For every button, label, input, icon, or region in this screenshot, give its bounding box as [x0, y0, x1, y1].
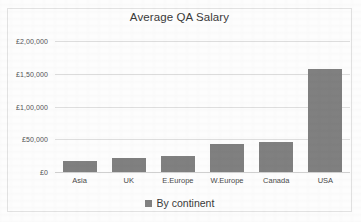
- bar-e-europe: [161, 156, 195, 172]
- bar-uk: [112, 158, 146, 172]
- y-tick-label: £1,00,000: [16, 103, 48, 110]
- x-tick-label: USA: [301, 176, 350, 185]
- gridline-0: [55, 172, 350, 173]
- chart-title: Average QA Salary: [7, 11, 352, 23]
- legend-swatch-icon: [145, 200, 152, 207]
- bar-canada: [259, 142, 293, 172]
- x-tick-label: UK: [104, 176, 153, 185]
- y-tick-label: £1,50,000: [16, 70, 48, 77]
- x-tick-label: E.Europe: [153, 176, 202, 185]
- y-tick-label: £50,000: [22, 136, 48, 143]
- x-tick-label: Canada: [252, 176, 301, 185]
- y-axis-tick-labels: £0£50,000£1,00,000£1,50,000£2,00,000: [0, 41, 52, 172]
- bar-usa: [308, 69, 342, 172]
- x-tick-label: W.Europe: [203, 176, 252, 185]
- y-tick-label: £2,00,000: [16, 38, 48, 45]
- x-axis-tick-labels: AsiaUKE.EuropeW.EuropeCanadaUSA: [55, 176, 350, 190]
- bar-w-europe: [210, 144, 244, 172]
- legend-label: By continent: [157, 197, 215, 209]
- chart-legend: By continent: [7, 197, 352, 209]
- x-tick-label: Asia: [55, 176, 104, 185]
- bar-asia: [63, 161, 97, 172]
- bar-series-by-continent: [55, 41, 350, 172]
- chart-figure: Average QA Salary £0£50,000£1,00,000£1,5…: [0, 0, 361, 222]
- y-tick-label: £0: [40, 169, 48, 176]
